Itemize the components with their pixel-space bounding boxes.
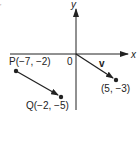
vector-v-label: v <box>99 59 105 69</box>
point-5-neg3 <box>114 78 118 82</box>
x-axis-label: x <box>131 50 136 60</box>
diagram-canvas <box>0 0 137 151</box>
segment-pq-arrow <box>16 71 58 95</box>
point-q <box>59 95 63 99</box>
coordinate-diagram: ʼ y x 0 v (5, −3) P(−7, −2) Q(−2, −5) <box>0 0 137 151</box>
point-p-label: P(−7, −2) <box>9 57 51 67</box>
point-5-neg3-label: (5, −3) <box>101 84 130 94</box>
y-axis-label: y <box>71 0 76 10</box>
corner-mark: ʼ <box>0 3 1 9</box>
point-q-label: Q(−2, −5) <box>26 101 69 111</box>
origin-label: 0 <box>67 57 73 67</box>
vector-v-arrow <box>76 54 113 78</box>
